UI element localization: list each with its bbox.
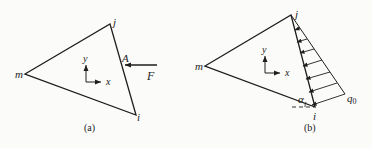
- panel-a: m j i A F y x (a): [15, 16, 157, 134]
- caption-a: (a): [84, 122, 95, 134]
- axis-label-y: y: [261, 44, 267, 55]
- node-label-m: m: [15, 68, 23, 80]
- axes-icon-b: [265, 56, 280, 73]
- axis-label-x: x: [284, 67, 290, 78]
- load-label-q0: q0: [347, 92, 357, 106]
- triangle-element-a: [25, 24, 136, 115]
- node-label-i: i: [313, 110, 316, 122]
- axis-label-y: y: [82, 53, 88, 64]
- axes-icon-a: [86, 65, 101, 82]
- figure: m j i A F y x (a) m j i α: [0, 0, 372, 148]
- axis-label-x: x: [105, 76, 111, 87]
- node-label-m: m: [195, 60, 203, 72]
- force-label-f: F: [146, 69, 155, 83]
- node-label-j: j: [111, 16, 116, 28]
- caption-b: (b): [304, 122, 316, 134]
- point-label-a: A: [121, 52, 129, 64]
- panel-b: m j i α q0 y x (b): [195, 8, 357, 134]
- figure-canvas: m j i A F y x (a) m j i α: [0, 0, 372, 148]
- load-envelope-line: [291, 15, 345, 94]
- node-label-i: i: [137, 111, 140, 123]
- angle-label-alpha: α: [298, 93, 304, 105]
